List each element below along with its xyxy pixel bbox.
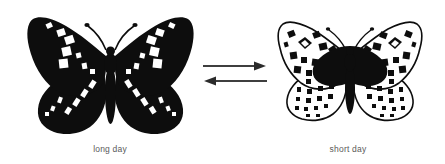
- caption-short-day: short day: [298, 144, 398, 154]
- transition-arrows-illustration: [200, 56, 270, 90]
- arrow-short-to-long: [204, 77, 267, 86]
- butterfly-short-day-form: [272, 12, 428, 124]
- butterfly-short-day-illustration: [272, 12, 428, 124]
- antenna-club-left: [326, 27, 330, 30]
- head: [346, 47, 354, 55]
- antenna-club-right: [370, 27, 374, 30]
- thorax: [104, 53, 117, 75]
- abdomen: [345, 66, 355, 114]
- butterfly-polyphenism-figure: long day short day: [0, 0, 445, 164]
- butterfly-long-day-illustration: [18, 6, 203, 138]
- transition-arrows: [200, 56, 270, 90]
- head: [106, 47, 115, 56]
- antenna-club-left: [84, 23, 89, 27]
- caption-long-day: long day: [60, 144, 160, 154]
- antenna-club-right: [132, 23, 137, 27]
- thorax: [345, 53, 356, 72]
- arrow-long-to-short: [203, 62, 266, 71]
- abdomen: [105, 68, 116, 124]
- butterfly-long-day-form: [18, 6, 203, 138]
